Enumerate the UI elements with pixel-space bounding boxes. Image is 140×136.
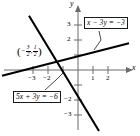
y-tick-label--3: −3 [64,111,71,118]
graph-figure: −3 −2 1 2 3 2 −2 −3 x y x − 3y = −3 5x +… [0,0,140,136]
y-coordinate-fraction: 1 2 [33,45,38,58]
y-tick-label-2: 2 [67,36,71,43]
x-axis-label: x [132,64,136,72]
equation-1-label: x − 3y = −3 [84,17,128,29]
y-axis-label: y [70,0,74,8]
x-tick-label-2: 2 [106,75,110,82]
x-coordinate-fraction: 3 2 [26,45,31,58]
intersection-point-label: (− 3 2 , 1 2 ) [17,45,42,58]
close-paren: ) [38,45,42,57]
x-tick-label-1: 1 [91,75,95,82]
y-tick-label--2: −2 [64,96,71,103]
y-denominator: 2 [33,51,38,58]
leader-line-equation-1 [94,31,101,50]
y-axis [75,5,81,130]
x-denominator: 2 [26,51,31,58]
x-tick-label--3: −3 [28,75,35,82]
x-tick-label--2: −2 [43,75,50,82]
equation-2-label: 5x + 3y = −6 [13,91,61,103]
x-negative-sign: − [21,47,26,55]
y-tick-label-3: 3 [67,21,71,28]
